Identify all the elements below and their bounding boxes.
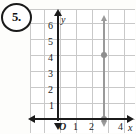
figure-root: 5.	[0, 0, 136, 134]
problem-number-badge: 5.	[1, 3, 32, 32]
y-tick-label-6: 6	[48, 21, 53, 31]
axis-labels: y x O 6 5 4 3 2 1 1 2 4	[30, 9, 135, 133]
problem-number-label: 5.	[12, 11, 21, 24]
x-tick-label-4: 4	[118, 122, 123, 132]
y-tick-label-1: 1	[49, 101, 54, 111]
y-tick-label-3: 3	[48, 69, 53, 79]
x-tick-label-1: 1	[73, 122, 78, 132]
origin-label: O	[59, 122, 66, 132]
y-axis-name: y	[61, 15, 65, 25]
coordinate-plane: y x O 6 5 4 3 2 1 1 2 4	[30, 9, 135, 133]
y-tick-label-4: 4	[48, 53, 53, 63]
x-axis-name: x	[128, 123, 132, 133]
y-tick-label-5: 5	[48, 37, 53, 47]
y-tick-label-2: 2	[48, 85, 53, 95]
x-tick-label-2: 2	[89, 122, 94, 132]
